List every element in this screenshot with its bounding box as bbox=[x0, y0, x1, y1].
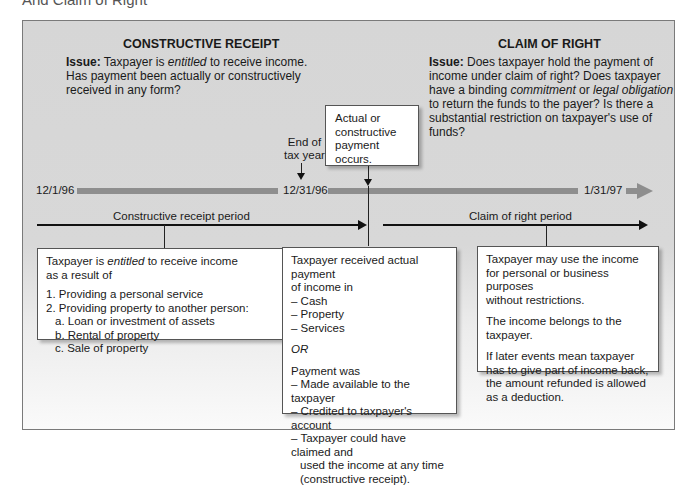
issue-label: Issue: bbox=[66, 55, 101, 69]
claim-of-right-period-label: Claim of right period bbox=[469, 210, 572, 222]
arrow-down-icon bbox=[364, 179, 372, 186]
claim-of-right-period-arrow bbox=[383, 224, 640, 226]
timeline-start-date: 12/1/96 bbox=[36, 184, 74, 196]
box-text: The income belongs to the taxpayer. bbox=[486, 315, 650, 342]
box-text: Payment was bbox=[291, 365, 448, 379]
constructive-receipt-issue: Issue: Taxpayer is entitled to receive i… bbox=[66, 55, 346, 97]
list-subitem: a. Loan or investment of assets bbox=[46, 315, 278, 329]
claim-of-right-issue: Issue: Does taxpayer hold the payment of… bbox=[429, 55, 689, 139]
or-label: OR bbox=[291, 343, 308, 355]
label-text: End of bbox=[284, 136, 325, 149]
box-text: for personal or business purposes bbox=[486, 267, 650, 294]
list-item: – Made available to the taxpayer bbox=[291, 378, 448, 405]
issue-emphasis: entitled bbox=[168, 55, 207, 69]
payment-occurs-box: Actual or constructive payment occurs. bbox=[325, 105, 419, 166]
constructive-receipt-period-arrow bbox=[37, 224, 359, 226]
label-text: tax year bbox=[284, 149, 325, 162]
box-text: payment occurs. bbox=[335, 139, 409, 166]
box-text: the amount refunded is allowed bbox=[486, 377, 650, 391]
issue-text: Taxpayer is bbox=[101, 55, 168, 69]
list-item: – Services bbox=[291, 322, 448, 336]
box-text: If later events mean taxpayer bbox=[486, 350, 650, 364]
box-text: constructive bbox=[335, 126, 409, 140]
box-text: Taxpayer may use the income bbox=[486, 253, 650, 267]
issue-text: to return the funds to the payer? Is the… bbox=[429, 97, 689, 111]
box-emphasis: entitled bbox=[107, 255, 144, 267]
left-box-connector bbox=[164, 225, 165, 248]
box-text: Taxpayer is bbox=[46, 255, 107, 267]
arrow-down-icon bbox=[297, 173, 305, 180]
list-item-continued: (constructive receipt). bbox=[291, 473, 448, 486]
timeline-mid-date: 12/31/96 bbox=[283, 184, 328, 196]
constructive-receipt-heading: CONSTRUCTIVE RECEIPT bbox=[123, 37, 279, 51]
box-text: as a deduction. bbox=[486, 391, 650, 405]
list-item-continued: used the income at any time bbox=[291, 459, 448, 473]
list-item: – Credited to taxpayer's account bbox=[291, 405, 448, 432]
box-text: to receive income bbox=[144, 255, 237, 267]
payment-vertical-line bbox=[368, 186, 369, 246]
list-item: – Taxpayer could have claimed and bbox=[291, 432, 448, 459]
issue-text: Has payment been actually or constructiv… bbox=[66, 69, 346, 83]
list-item: 1. Providing a personal service bbox=[46, 288, 278, 302]
claim-of-right-box: Taxpayer may use the income for personal… bbox=[477, 246, 659, 372]
timeline-end-date: 1/31/97 bbox=[584, 184, 622, 196]
box-text: without restrictions. bbox=[486, 294, 650, 308]
list-subitem: c. Sale of property bbox=[46, 342, 278, 356]
end-of-tax-year-label: End of tax year bbox=[284, 136, 325, 162]
payment-received-box: Taxpayer received actual payment of inco… bbox=[282, 247, 457, 414]
list-item: 2. Providing property to another person: bbox=[46, 302, 278, 316]
issue-emphasis: commitment bbox=[510, 83, 575, 97]
issue-text: substantial restriction on taxpayer's us… bbox=[429, 111, 689, 139]
right-box-connector bbox=[546, 225, 547, 247]
issue-emphasis: legal obligation bbox=[593, 83, 673, 97]
box-text: of income in bbox=[291, 281, 448, 295]
issue-text: to receive income. bbox=[207, 55, 308, 69]
arrow-right-icon bbox=[358, 220, 367, 230]
arrow-right-icon bbox=[639, 220, 648, 230]
list-subitem: b. Rental of property bbox=[46, 329, 278, 343]
issue-text: received in any form? bbox=[66, 83, 346, 97]
box-text: has to give part of income back, bbox=[486, 364, 650, 378]
issue-label: Issue: bbox=[429, 55, 464, 69]
issue-text: or bbox=[576, 83, 593, 97]
timeline-arrow-icon bbox=[637, 183, 653, 199]
claim-of-right-heading: CLAIM OF RIGHT bbox=[498, 37, 601, 51]
constructive-receipt-period-label: Constructive receipt period bbox=[113, 210, 250, 222]
figure-caption: And Claim of Right bbox=[22, 0, 147, 8]
timeline-bar-segment bbox=[77, 188, 278, 194]
issue-text: income under claim of right? Does taxpay… bbox=[429, 69, 689, 83]
timeline-bar-segment bbox=[328, 188, 578, 194]
issue-text: Does taxpayer hold the payment of bbox=[464, 55, 653, 69]
box-text: Taxpayer received actual payment bbox=[291, 254, 448, 281]
list-item: – Property bbox=[291, 308, 448, 322]
list-item: – Cash bbox=[291, 295, 448, 309]
box-text: as a result of bbox=[46, 269, 278, 283]
issue-text: have a binding bbox=[429, 83, 510, 97]
box-text: Actual or bbox=[335, 112, 409, 126]
entitled-to-receive-box: Taxpayer is entitled to receive income a… bbox=[37, 248, 287, 340]
